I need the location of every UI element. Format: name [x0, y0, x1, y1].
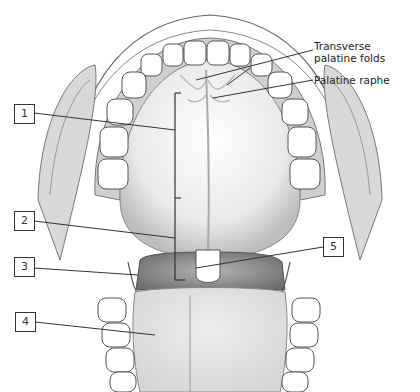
label-box-4: 4	[15, 312, 36, 332]
callout-transverse-line1: Transverse	[314, 40, 385, 52]
left-cheek	[38, 65, 96, 260]
tongue	[133, 288, 287, 392]
callout-transverse-palatine-folds: Transverse palatine folds	[314, 40, 385, 64]
label-box-2: 2	[14, 211, 35, 231]
right-cheek	[324, 65, 382, 260]
oral-cavity-diagram: 1 2 3 4 5 Transverse palatine folds Pala…	[0, 0, 420, 392]
leader-3	[34, 268, 138, 275]
callout-transverse-line2: palatine folds	[314, 52, 385, 64]
callout-palatine-raphe: Palatine raphe	[314, 74, 390, 86]
label-box-3: 3	[14, 257, 35, 277]
label-box-5: 5	[323, 237, 344, 257]
label-box-1: 1	[14, 104, 35, 124]
